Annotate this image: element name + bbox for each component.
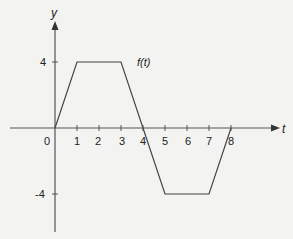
x-tick-label: 3 <box>119 135 125 147</box>
x-tick-label: 4 <box>140 135 146 147</box>
x-axis-label: t <box>282 122 286 136</box>
origin-label: 0 <box>44 135 50 147</box>
x-tick-label: 5 <box>162 135 168 147</box>
x-tick-label: 7 <box>206 135 212 147</box>
x-tick-label: 1 <box>74 135 80 147</box>
series-label: f(t) <box>137 56 151 68</box>
line-chart: y t 0 1 2 3 4 5 6 7 8 4 -4 f(t) <box>0 0 293 239</box>
y-tick-label: 4 <box>40 56 46 68</box>
x-tick-label: 8 <box>228 135 234 147</box>
y-axis-label: y <box>50 6 58 20</box>
y-axis-arrow-icon <box>52 21 59 30</box>
x-tick-label: 6 <box>185 135 191 147</box>
x-tick-label: 2 <box>95 135 101 147</box>
x-axis-arrow-icon <box>271 125 280 132</box>
y-tick-label: -4 <box>35 188 45 200</box>
